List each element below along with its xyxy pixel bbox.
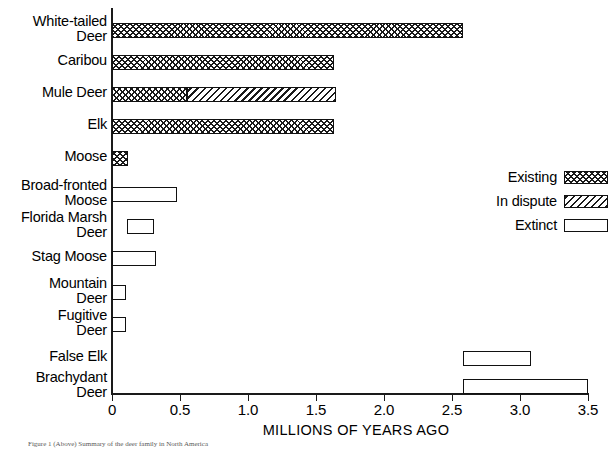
category-label: Fugitive Deer [58, 308, 107, 339]
x-tick-label: 1.0 [238, 401, 258, 418]
category-label: Broad-fronted Moose [21, 178, 107, 209]
bar-segment [463, 379, 588, 394]
figure-caption: Figure 1 (Above) Summary of the deer fam… [28, 440, 588, 448]
x-tick-label: 0.5 [170, 401, 190, 418]
bar-segment [127, 219, 154, 234]
legend-label-extinct: Extinct [515, 217, 557, 233]
deer-timeline-chart: 00.51.01.52.02.53.03.5 White-tailed Deer… [0, 0, 614, 451]
category-label: White-tailed Deer [33, 14, 107, 45]
x-tick-label: 3.5 [578, 401, 598, 418]
category-label: Moose [64, 149, 107, 165]
x-tick-label: 0 [108, 401, 116, 418]
bar-segment [112, 151, 128, 166]
category-label: Brachydant Deer [36, 370, 107, 401]
x-axis-title: MILLIONS OF YEARS AGO [0, 422, 614, 438]
x-tick-label: 2.5 [442, 401, 462, 418]
category-label: Florida Marsh Deer [21, 210, 107, 241]
bar-segment [112, 187, 177, 202]
x-tick-label: 2.0 [374, 401, 394, 418]
legend: Existing In dispute Extinct [480, 166, 608, 238]
bar-segment [112, 55, 334, 70]
legend-label-in-dispute: In dispute [496, 193, 557, 209]
bar-segment [112, 251, 156, 266]
bar-segment [112, 87, 187, 102]
category-label: Elk [87, 117, 107, 133]
x-tick-label: 3.0 [510, 401, 530, 418]
bar-segment [112, 119, 334, 134]
bar-segment [112, 23, 463, 38]
bar-segment [463, 351, 531, 366]
legend-item-extinct: Extinct [480, 214, 608, 236]
legend-label-existing: Existing [508, 169, 557, 185]
legend-item-in-dispute: In dispute [480, 190, 608, 212]
legend-swatch-in-dispute-icon [564, 195, 608, 208]
category-label: Stag Moose [32, 249, 107, 265]
legend-item-existing: Existing [480, 166, 608, 188]
bar-segment [112, 285, 126, 300]
legend-swatch-existing-icon [564, 171, 608, 184]
legend-swatch-extinct-icon [564, 219, 608, 232]
category-label: Mule Deer [42, 85, 107, 101]
x-tick-label: 1.5 [306, 401, 326, 418]
category-label: Mountain Deer [49, 276, 107, 307]
category-label: Caribou [58, 53, 107, 69]
category-label: False Elk [49, 349, 107, 365]
bar-segment [112, 317, 126, 332]
bar-segment [187, 87, 337, 102]
